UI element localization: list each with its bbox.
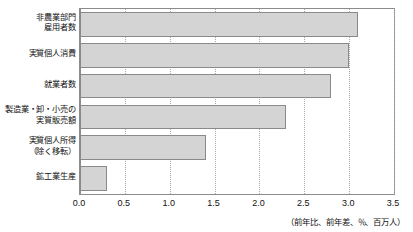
category-label: 就業者数 [0,80,76,91]
bar-row [80,12,394,37]
x-tick-label: 2.0 [252,197,265,209]
x-tick-label: 1.0 [162,197,175,209]
units-footnote: （前年比、前年差、％、百万人） [286,217,405,228]
category-label: 実質個人所得 （除く移転） [0,136,76,157]
bar-row [80,166,394,191]
x-tick-label: 0.5 [118,197,131,209]
x-tick-label: 2.5 [297,197,310,209]
gridline-3.5 [394,9,395,194]
category-label: 鉱工業生産 [0,172,76,183]
bar [80,166,107,191]
category-label: 実質個人消費 [0,49,76,60]
bar [80,135,206,160]
category-label: 製造業・卸・小売の 実質販売額 [0,105,76,126]
bar-row [80,74,394,99]
bar-chart: 非農業部門 雇用者数実質個人消費就業者数製造業・卸・小売の 実質販売額実質個人所… [0,0,413,232]
bar [80,43,349,68]
x-tick-label: 0.0 [73,197,86,209]
bar-row [80,43,394,68]
bar [80,105,286,130]
x-tick-label: 3.5 [387,197,400,209]
bar [80,12,358,37]
bar [80,74,331,99]
bar-row [80,135,394,160]
x-tick-label: 1.5 [207,197,220,209]
x-tick-label: 3.0 [342,197,355,209]
category-label: 非農業部門 雇用者数 [0,13,76,34]
category-axis-labels: 非農業部門 雇用者数実質個人消費就業者数製造業・卸・小売の 実質販売額実質個人所… [0,8,76,195]
bar-row [80,105,394,130]
value-axis-labels: 0.00.51.01.52.02.53.03.5 [79,197,395,211]
plot-area [79,8,395,195]
